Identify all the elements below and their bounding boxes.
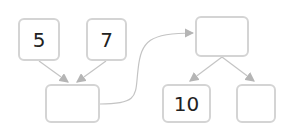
node-sum-empty[interactable]	[45, 84, 100, 123]
node-7-label: 7	[100, 28, 113, 52]
arrow-5-to-sum	[39, 61, 68, 82]
node-10-label: 10	[174, 92, 199, 116]
node-5-label: 5	[33, 28, 46, 52]
arrow-7-to-sum	[77, 61, 106, 82]
node-10: 10	[162, 84, 211, 123]
node-right-empty[interactable]	[236, 84, 276, 123]
node-5: 5	[18, 18, 60, 61]
arrow-target-to-empty	[222, 57, 254, 81]
node-target-empty[interactable]	[195, 16, 249, 57]
number-bond-diagram: 5 7 10	[0, 0, 291, 137]
arrow-target-to-10	[190, 57, 222, 81]
node-7: 7	[86, 18, 127, 61]
